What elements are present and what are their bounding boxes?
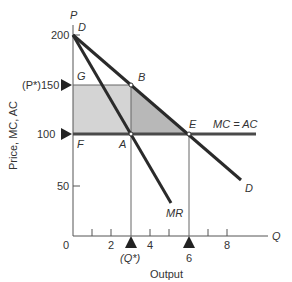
point-label-f: F <box>77 138 85 150</box>
point-label-e: E <box>189 118 197 130</box>
chart: P Q 200 (P*)150 100 50 Price, MC, AC 0 2… <box>0 0 292 282</box>
x-label-2: 2 <box>108 239 114 251</box>
point-label-g: G <box>77 70 86 82</box>
y-label-200: 200 <box>51 29 69 41</box>
x-label-qstar: (Q*) <box>120 252 141 264</box>
x-ticks <box>92 229 227 236</box>
y-label-50: 50 <box>57 180 69 192</box>
x-label-8: 8 <box>224 239 230 251</box>
point-label-a: A <box>118 138 126 150</box>
x-label-0: 0 <box>63 239 69 251</box>
curve-label-d: D <box>245 182 253 194</box>
curve-label-mr: MR <box>166 207 183 219</box>
curve-label-mc-ac: MC = AC <box>213 118 258 130</box>
p-star-arrow-icon <box>61 79 72 91</box>
mc-arrow-icon <box>61 128 72 140</box>
profit-rectangle <box>73 85 131 134</box>
point-label-d: D <box>78 21 86 33</box>
point-b <box>129 83 133 87</box>
point-label-b: B <box>138 71 145 83</box>
q-star-arrow-icon <box>125 236 137 248</box>
q-six-arrow-icon <box>183 236 195 248</box>
x-label-6: 6 <box>186 252 192 264</box>
point-a <box>129 132 133 136</box>
x-axis-symbol: Q <box>272 230 281 242</box>
y-label-150: (P*)150 <box>22 79 59 91</box>
x-label-4: 4 <box>147 239 153 251</box>
y-axis-title: Price, MC, AC <box>7 101 19 170</box>
y-label-100: 100 <box>37 128 55 140</box>
point-e <box>187 132 191 136</box>
y-axis-symbol: P <box>70 9 78 21</box>
x-axis-title: Output <box>150 268 183 280</box>
